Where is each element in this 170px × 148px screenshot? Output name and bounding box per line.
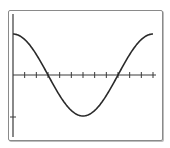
axes [10, 14, 156, 137]
cosine-graph [0, 0, 170, 148]
